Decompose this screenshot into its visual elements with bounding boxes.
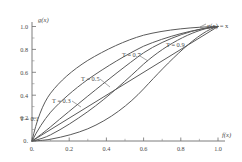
y-tick-label-0.8: 0.8 [20, 46, 28, 53]
y-tick-label-0: 0. [23, 137, 28, 144]
x-tick-label-1.0: 1.0 [214, 145, 222, 152]
leader-T-0.3 [72, 101, 81, 107]
curve-label-T-0.1: T = 0.1 [20, 115, 39, 122]
y-tick-label-0.4: 0.4 [20, 92, 28, 99]
curve-label-T-0.5: T = 0.5 [81, 75, 100, 82]
x-tick-label-0.4: 0.4 [103, 145, 111, 152]
y-tick-label-0.6: 0.6 [20, 69, 28, 76]
x-tick-label-0.2: 0.2 [65, 145, 73, 152]
plot-canvas: 1.0 0.8 0.6 0.4 0.2 0. 0. 0.2 0.4 0.6 [0, 0, 242, 162]
x-tick-label-0.8: 0.8 [177, 145, 185, 152]
y-tick-labels-group: 1.0 0.8 0.6 0.4 0.2 0. [20, 23, 28, 145]
y-axis-label: g(x) [38, 16, 49, 24]
curve-label-T-0.9: T = 0.9 [166, 41, 185, 48]
x-tick-labels-group: 0. 0.2 0.4 0.6 0.8 1.0 [30, 145, 222, 152]
leader-T-0.5 [100, 79, 110, 87]
y-ticks-group [32, 27, 36, 142]
x-axis-label: f(x) [222, 131, 231, 139]
y-tick-label-1.0: 1.0 [20, 23, 28, 30]
curves-group [32, 27, 218, 142]
leader-T-0.7 [140, 56, 148, 61]
reference-line-label: g(x) = x [207, 22, 229, 30]
x-tick-label-0: 0. [30, 145, 35, 152]
curve-label-T-0.7: T = 0.7 [122, 51, 141, 58]
reference-line-identity [32, 27, 218, 142]
x-tick-label-0.6: 0.6 [140, 145, 148, 152]
curve-label-T-0.3: T = 0.3 [52, 97, 71, 104]
x-ticks-group [32, 138, 218, 142]
plot-figure: 1.0 0.8 0.6 0.4 0.2 0. 0. 0.2 0.4 0.6 [0, 0, 242, 162]
